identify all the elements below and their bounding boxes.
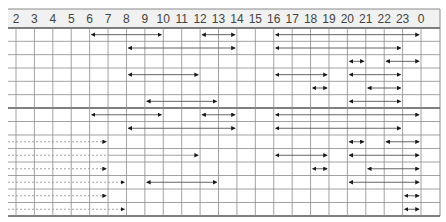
- hour-label: 10: [157, 12, 171, 26]
- hour-label: 20: [341, 12, 355, 26]
- hour-label: 21: [359, 12, 373, 26]
- hour-label: 2: [13, 12, 20, 26]
- hour-label: 5: [68, 12, 75, 26]
- hour-label: 19: [322, 12, 336, 26]
- hour-label: 3: [31, 12, 38, 26]
- hour-label: 23: [396, 12, 410, 26]
- hour-header: 2345678910111213141516171819202122230: [13, 12, 425, 26]
- hour-label: 14: [230, 12, 244, 26]
- timetable-diagram: 2345678910111213141516171819202122230: [0, 0, 446, 222]
- hour-label: 17: [285, 12, 299, 26]
- hour-label: 6: [86, 12, 93, 26]
- hour-label: 11: [175, 12, 188, 26]
- hour-label: 7: [105, 12, 112, 26]
- grid: [8, 9, 440, 216]
- hour-label: 13: [212, 12, 226, 26]
- hour-label: 12: [193, 12, 207, 26]
- hour-label: 15: [249, 12, 263, 26]
- hour-label: 8: [123, 12, 130, 26]
- hour-label: 9: [142, 12, 149, 26]
- hour-label: 0: [418, 12, 425, 26]
- hour-label: 16: [267, 12, 281, 26]
- time-segments: [8, 35, 419, 210]
- hour-label: 18: [304, 12, 318, 26]
- hour-label: 4: [49, 12, 56, 26]
- hour-label: 22: [378, 12, 392, 26]
